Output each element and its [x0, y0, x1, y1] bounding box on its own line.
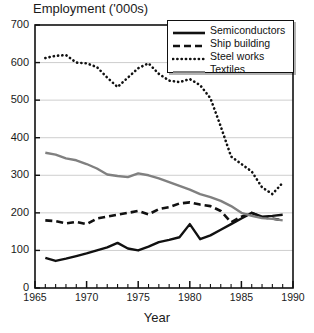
x-tick-label: 1980 — [178, 291, 201, 303]
legend-item[interactable]: Semiconductors — [172, 23, 293, 36]
y-tick-label: 400 — [0, 131, 29, 143]
legend-item-label: Textiles — [210, 63, 245, 75]
series-line — [45, 55, 282, 194]
legend-item[interactable]: Ship building — [172, 36, 293, 49]
y-tick-label: 700 — [0, 18, 29, 30]
chart-legend: SemiconductorsShip buildingSteel worksTe… — [167, 20, 294, 73]
x-tick-label: 1990 — [281, 291, 304, 303]
legend-item-label: Steel works — [210, 50, 264, 62]
legend-line-swatch-icon — [172, 63, 206, 74]
employment-line-chart: Employment ('000s) 010020030040050060070… — [0, 0, 314, 333]
y-tick-label: 200 — [0, 206, 29, 218]
x-tick-label: 1965 — [23, 291, 46, 303]
y-tick-label: 600 — [0, 56, 29, 68]
y-tick-label: 100 — [0, 243, 29, 255]
series-line — [45, 153, 282, 221]
x-tick-label: 1975 — [127, 291, 150, 303]
y-tick-label: 300 — [0, 168, 29, 180]
series-line — [45, 213, 282, 261]
legend-line-swatch-icon — [172, 37, 206, 48]
legend-item-label: Semiconductors — [210, 24, 285, 36]
x-tick-label: 1985 — [230, 291, 253, 303]
legend-line-swatch-icon — [172, 24, 206, 35]
y-tick-label: 500 — [0, 93, 29, 105]
legend-item[interactable]: Steel works — [172, 49, 293, 62]
legend-item-label: Ship building — [210, 37, 270, 49]
legend-item[interactable]: Textiles — [172, 62, 293, 75]
x-axis-title: Year — [0, 310, 314, 325]
x-tick-label: 1970 — [75, 291, 98, 303]
legend-line-swatch-icon — [172, 50, 206, 61]
